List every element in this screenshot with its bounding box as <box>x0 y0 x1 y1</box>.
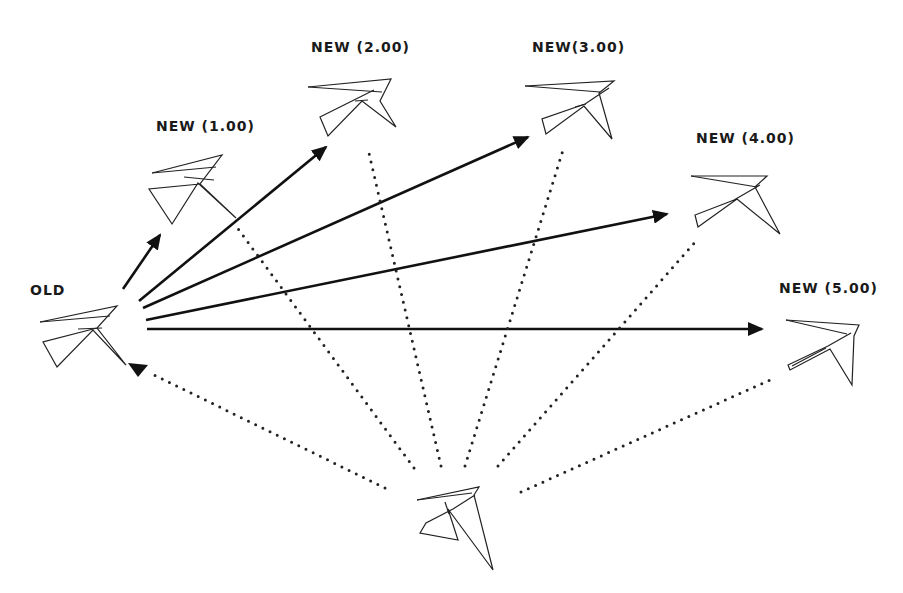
dotted-base-to-old <box>148 372 385 488</box>
dotted-base-to-new1 <box>236 226 414 468</box>
label-new4: NEW (4.00) <box>696 130 795 146</box>
figure-old <box>40 306 126 367</box>
dotted-base-to-new2 <box>369 153 441 466</box>
label-new3: NEW(3.00) <box>532 39 625 55</box>
diagram-graphics <box>0 0 903 593</box>
figure-base <box>417 487 493 570</box>
dotted-base-to-new3 <box>465 150 563 466</box>
figure-new4 <box>691 176 780 234</box>
figure-new3 <box>525 81 614 139</box>
figure-new2 <box>308 79 396 136</box>
solid-arrows <box>123 137 762 329</box>
figure-new1 <box>149 155 236 224</box>
dotted-arrowhead-icon <box>128 363 148 377</box>
figure-new5 <box>786 320 859 385</box>
dotted-lines <box>128 150 770 492</box>
arrow-old-to-new1 <box>123 235 160 289</box>
arrow-old-to-new2 <box>139 147 326 301</box>
diagram-canvas: OLD NEW (1.00) NEW (2.00) NEW(3.00) NEW … <box>0 0 903 593</box>
dotted-base-to-new5 <box>521 380 770 492</box>
label-new5: NEW (5.00) <box>779 280 878 296</box>
label-new2: NEW (2.00) <box>311 39 410 55</box>
dotted-base-to-new4 <box>498 240 697 466</box>
label-new1: NEW (1.00) <box>156 118 255 134</box>
label-old: OLD <box>30 282 65 298</box>
